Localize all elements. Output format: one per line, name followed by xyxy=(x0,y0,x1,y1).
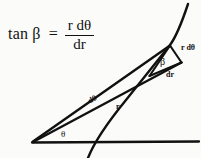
label-radius-r: r xyxy=(116,103,120,111)
ray-theta-radius-r xyxy=(33,63,182,143)
label-beta-angle: β xyxy=(160,57,165,67)
label-theta-angle: θ xyxy=(61,130,65,139)
equation-left-side: tan β xyxy=(8,26,41,42)
segment-r-dtheta xyxy=(170,46,182,63)
equation-numerator: r dθ xyxy=(65,18,94,35)
spiral-curve xyxy=(88,4,188,158)
label-r-dtheta: r dθ xyxy=(181,44,195,52)
label-dr: dr xyxy=(166,71,174,79)
baseline-axis xyxy=(32,142,199,143)
equation-equals-sign: = xyxy=(49,26,58,42)
ray-theta-plus-dtheta xyxy=(33,46,170,142)
equation-denominator: dr xyxy=(70,36,89,53)
equation-fraction: r dθ dr xyxy=(65,18,94,53)
equation-tan-beta: tan β = r dθ dr xyxy=(8,17,94,52)
figure-container: tan β = r dθ dr r dθ dr β dθ r θ xyxy=(0,0,201,158)
